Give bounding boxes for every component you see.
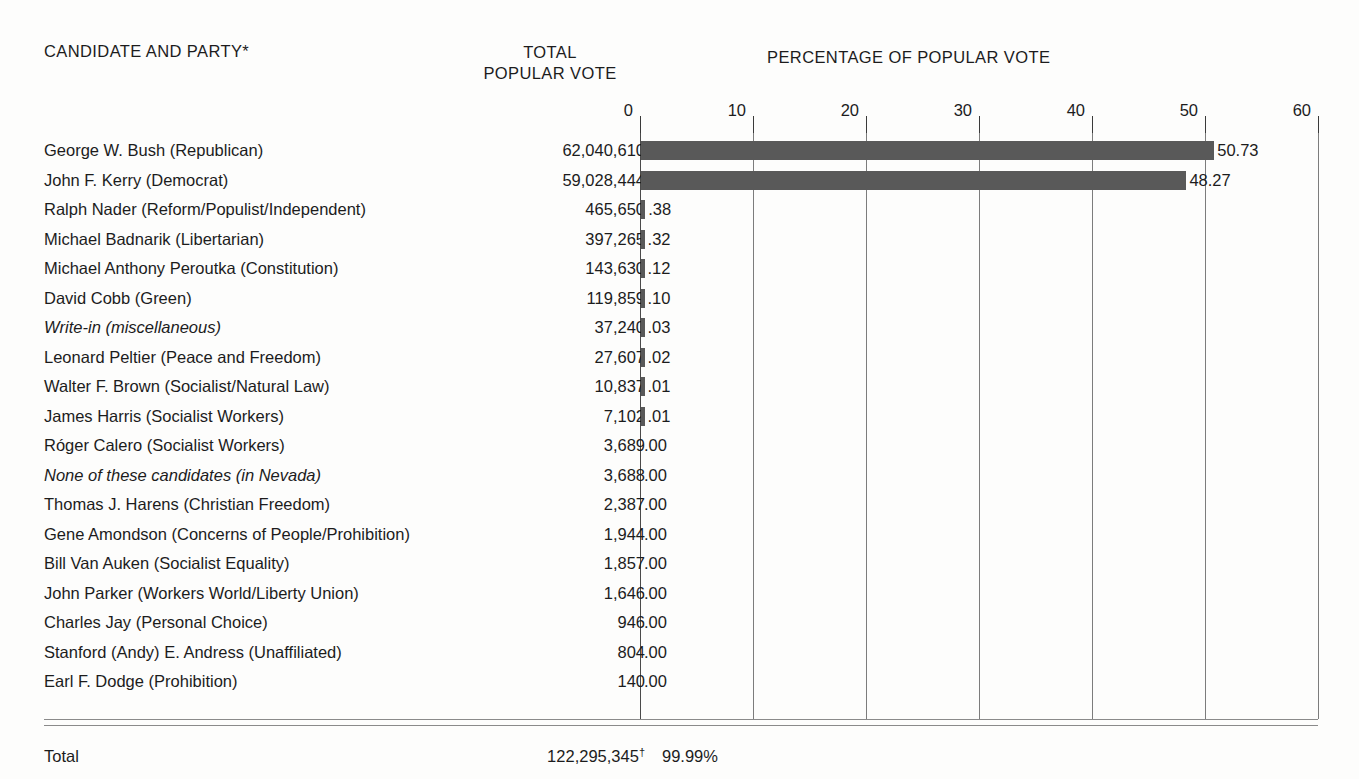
row-percentage-label: .00 [644, 524, 667, 544]
row-percentage-bar [641, 259, 645, 278]
row-candidate-name: David Cobb (Green) [44, 288, 192, 308]
row-percentage-label: .00 [644, 612, 667, 632]
x-axis-tick-mark [866, 116, 867, 133]
table-row: Michael Badnarik (Libertarian)397,265.32 [0, 229, 1359, 258]
row-candidate-name: Leonard Peltier (Peace and Freedom) [44, 347, 321, 367]
row-percentage-label: .38 [648, 199, 671, 219]
row-percentage-label: .02 [648, 347, 671, 367]
row-total-votes: 1,944 [395, 524, 645, 544]
row-candidate-name: Walter F. Brown (Socialist/Natural Law) [44, 376, 329, 396]
row-percentage-bar [641, 141, 1214, 160]
row-percentage-bar [641, 407, 645, 426]
row-percentage-label: .00 [644, 465, 667, 485]
row-percentage-label: .00 [644, 583, 667, 603]
table-row: Ralph Nader (Reform/Populist/Independent… [0, 199, 1359, 228]
row-percentage-bar [641, 230, 645, 249]
x-axis-tick-label: 40 [1067, 101, 1085, 120]
table-row: Thomas J. Harens (Christian Freedom)2,38… [0, 494, 1359, 523]
row-total-votes: 804 [395, 642, 645, 662]
table-row: Bill Van Auken (Socialist Equality)1,857… [0, 553, 1359, 582]
chart-title: PERCENTAGE OF POPULAR VOTE [767, 48, 1050, 67]
row-percentage-bar [641, 171, 1186, 190]
row-percentage-label: .00 [644, 435, 667, 455]
row-total-votes: 143,630 [395, 258, 645, 278]
row-candidate-name: Michael Badnarik (Libertarian) [44, 229, 264, 249]
row-total-votes: 27,607 [395, 347, 645, 367]
row-percentage-bar [641, 289, 645, 308]
row-total-votes: 3,689 [395, 435, 645, 455]
x-axis-tick-mark [1092, 116, 1093, 133]
row-percentage-label: .00 [644, 671, 667, 691]
row-total-votes: 37,240 [395, 317, 645, 337]
x-axis-tick-mark [640, 116, 641, 133]
row-percentage-label: .01 [648, 376, 671, 396]
row-percentage-bar [641, 200, 645, 219]
table-row: James Harris (Socialist Workers)7,102.01 [0, 406, 1359, 435]
x-axis-tick-mark [753, 116, 754, 133]
table-row: Leonard Peltier (Peace and Freedom)27,60… [0, 347, 1359, 376]
row-candidate-name: James Harris (Socialist Workers) [44, 406, 284, 426]
row-candidate-name: None of these candidates (in Nevada) [44, 465, 321, 485]
row-total-votes: 59,028,444 [395, 170, 645, 190]
row-total-votes: 10,837 [395, 376, 645, 396]
row-candidate-name: Thomas J. Harens (Christian Freedom) [44, 494, 330, 514]
table-row: Walter F. Brown (Socialist/Natural Law)1… [0, 376, 1359, 405]
row-candidate-name: Bill Van Auken (Socialist Equality) [44, 553, 289, 573]
column-header-total-line1: TOTAL [455, 42, 645, 63]
row-percentage-label: .01 [648, 406, 671, 426]
total-row-votes: 122,295,345† [395, 747, 645, 766]
row-total-votes: 465,650 [395, 199, 645, 219]
total-divider-rule [44, 725, 1318, 726]
row-candidate-name: Charles Jay (Personal Choice) [44, 612, 268, 632]
row-total-votes: 1,646 [395, 583, 645, 603]
x-axis-tick-label: 30 [954, 101, 972, 120]
row-percentage-bar [641, 348, 645, 367]
row-candidate-name: John F. Kerry (Democrat) [44, 170, 228, 190]
table-row: David Cobb (Green)119,859.10 [0, 288, 1359, 317]
x-axis-tick-mark [1318, 116, 1319, 133]
row-percentage-label: 48.27 [1189, 170, 1230, 190]
x-axis-tick-mark [1205, 116, 1206, 133]
row-candidate-name: Write-in (miscellaneous) [44, 317, 221, 337]
row-candidate-name: John Parker (Workers World/Liberty Union… [44, 583, 359, 603]
total-votes-value: 122,295,345 [547, 747, 639, 765]
table-row: Gene Amondson (Concerns of People/Prohib… [0, 524, 1359, 553]
row-candidate-name: Stanford (Andy) E. Andress (Unaffiliated… [44, 642, 342, 662]
total-votes-footnote-marker: † [639, 746, 645, 758]
row-candidate-name: Gene Amondson (Concerns of People/Prohib… [44, 524, 410, 544]
row-total-votes: 7,102 [395, 406, 645, 426]
table-row: Write-in (miscellaneous)37,240.03 [0, 317, 1359, 346]
column-header-total-line2: POPULAR VOTE [455, 63, 645, 84]
row-total-votes: 2,387 [395, 494, 645, 514]
total-row-percent: 99.99% [662, 747, 718, 766]
row-total-votes: 946 [395, 612, 645, 632]
table-row: Stanford (Andy) E. Andress (Unaffiliated… [0, 642, 1359, 671]
chart-bottom-rule [44, 719, 1318, 720]
row-candidate-name: Ralph Nader (Reform/Populist/Independent… [44, 199, 366, 219]
table-row: Róger Calero (Socialist Workers)3,689.00 [0, 435, 1359, 464]
row-percentage-label: .00 [644, 642, 667, 662]
column-header-candidate: CANDIDATE AND PARTY* [44, 42, 249, 61]
row-candidate-name: Earl F. Dodge (Prohibition) [44, 671, 238, 691]
table-row: John F. Kerry (Democrat)59,028,44448.27 [0, 170, 1359, 199]
total-row-label: Total [44, 747, 79, 766]
x-axis-tick-label: 0 [624, 101, 633, 120]
row-percentage-label: .00 [644, 494, 667, 514]
table-row: George W. Bush (Republican)62,040,61050.… [0, 140, 1359, 169]
row-total-votes: 62,040,610 [395, 140, 645, 160]
row-candidate-name: George W. Bush (Republican) [44, 140, 263, 160]
row-candidate-name: Michael Anthony Peroutka (Constitution) [44, 258, 338, 278]
table-row: None of these candidates (in Nevada)3,68… [0, 465, 1359, 494]
row-total-votes: 1,857 [395, 553, 645, 573]
row-candidate-name: Róger Calero (Socialist Workers) [44, 435, 285, 455]
row-percentage-label: .10 [648, 288, 671, 308]
table-row: Earl F. Dodge (Prohibition)140.00 [0, 671, 1359, 700]
x-axis-tick-label: 50 [1180, 101, 1198, 120]
x-axis-tick-label: 20 [841, 101, 859, 120]
column-header-total-popular-vote: TOTAL POPULAR VOTE [455, 42, 645, 84]
row-total-votes: 140 [395, 671, 645, 691]
row-total-votes: 119,859 [395, 288, 645, 308]
row-percentage-bar [641, 377, 645, 396]
row-percentage-bar [641, 318, 645, 337]
election-results-table: CANDIDATE AND PARTY* TOTAL POPULAR VOTE … [0, 0, 1359, 779]
